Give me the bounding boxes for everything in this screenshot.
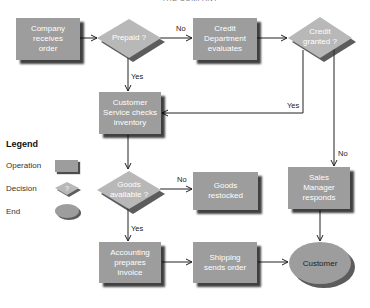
node-customer-service-checks-inventory: Customer Service checks inventory [99, 92, 161, 134]
diamond-icon: ? [55, 181, 83, 199]
edge-label-credit-no: No [338, 149, 348, 158]
prepaid-label: Prepaid ? [97, 18, 161, 58]
node-shipping-sends-order: Shipping sends order [193, 242, 257, 283]
node-company-receives-order: Company receives order [16, 18, 80, 60]
legend-end-label: End [6, 207, 20, 216]
node-credit-granted-decision: Credit granted ? [288, 16, 352, 58]
edge-label-goods-no: No [177, 175, 187, 184]
edge-label-prepaid-yes: Yes [131, 72, 143, 81]
node-credit-department-evaluates: Credit Department evaluates [193, 18, 257, 60]
node-sales-manager-responds: Sales Manager responds [288, 167, 350, 209]
node-prepaid-decision: Prepaid ? [97, 18, 161, 58]
node-accounting-prepares-invoice: Accounting prepares invoice [99, 242, 161, 283]
goods-available-label: Goods available ? [97, 170, 161, 209]
legend-operation-swatch [55, 160, 78, 172]
legend-operation-label: Operation [6, 161, 41, 170]
legend-title: Legend [6, 139, 38, 149]
legend-decision-swatch: ? [55, 181, 81, 197]
node-goods-restocked: Goods restocked [193, 172, 258, 210]
node-goods-available-decision: Goods available ? [97, 170, 161, 209]
flowchart-canvas: THE COMPANY [0, 0, 370, 308]
ellipse-icon [55, 203, 83, 223]
edge-label-credit-yes: Yes [287, 101, 299, 110]
legend-decision-label: Decision [6, 184, 37, 193]
edge-label-prepaid-no: No [176, 24, 186, 33]
svg-text:?: ? [65, 185, 69, 192]
credit-granted-label: Credit granted ? [288, 16, 352, 58]
edge-label-goods-yes: Yes [131, 224, 143, 233]
legend-end-swatch [55, 203, 81, 221]
node-customer-end: Customer [289, 242, 351, 285]
customer-label: Customer [289, 242, 351, 285]
